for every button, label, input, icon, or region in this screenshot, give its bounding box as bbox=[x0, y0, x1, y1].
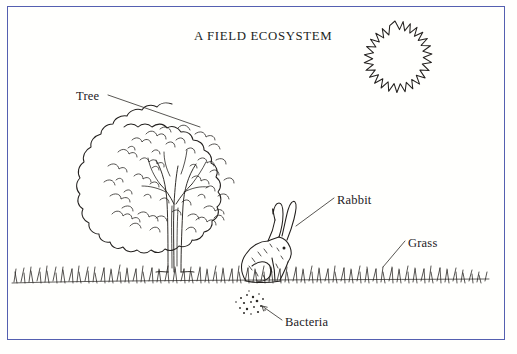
bacteria-cluster bbox=[235, 290, 266, 315]
leader-line-rabbit bbox=[296, 198, 334, 226]
leader-line-bacteria bbox=[262, 306, 282, 320]
ecosystem-diagram-page: .ink { fill: none; stroke: #23201e; stro… bbox=[0, 0, 517, 354]
leader-lines bbox=[108, 95, 405, 320]
rabbit-eye bbox=[283, 247, 286, 250]
label-tree: Tree bbox=[76, 90, 99, 103]
rabbit-illustration bbox=[242, 201, 297, 282]
label-bacteria: Bacteria bbox=[285, 316, 328, 329]
sun-icon bbox=[364, 21, 432, 93]
label-grass: Grass bbox=[408, 237, 437, 250]
tree-illustration bbox=[77, 103, 234, 272]
diagram-canvas: .ink { fill: none; stroke: #23201e; stro… bbox=[0, 0, 517, 354]
page-title: A FIELD ECOSYSTEM bbox=[194, 30, 332, 43]
leader-line-grass bbox=[383, 241, 405, 267]
label-rabbit: Rabbit bbox=[337, 194, 372, 207]
leader-line-tree bbox=[108, 95, 200, 127]
